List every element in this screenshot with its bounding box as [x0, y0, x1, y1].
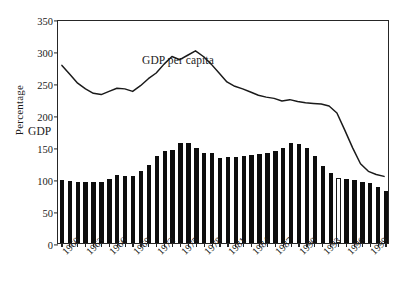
annotation-gdp-per-capita: GDP per capita — [142, 54, 214, 66]
y-axis-title: Percentage — [13, 55, 25, 165]
bar-1971 — [147, 165, 151, 243]
x-tick-mark — [188, 243, 189, 247]
y-tick-mark — [54, 20, 58, 21]
bar-1972 — [155, 156, 159, 243]
bar-1974 — [170, 150, 174, 243]
x-tick-mark — [354, 243, 355, 247]
x-tick-mark — [164, 243, 165, 247]
bar-1998 — [360, 182, 364, 243]
bar-1997 — [352, 180, 356, 243]
x-tick-mark — [77, 243, 78, 247]
bar-1978 — [202, 153, 206, 243]
x-tick-mark — [101, 243, 102, 247]
bar-1994 — [329, 173, 333, 243]
x-tick-mark — [267, 243, 268, 247]
x-tick-mark — [378, 243, 379, 247]
x-tick-mark — [235, 243, 236, 247]
bar-1981 — [226, 157, 230, 243]
bar-1964 — [91, 182, 95, 243]
x-tick-mark — [93, 243, 94, 247]
bar-1987 — [273, 151, 277, 243]
bar-1965 — [99, 182, 103, 243]
bar-1966 — [107, 179, 111, 243]
y-tick-mark — [54, 84, 58, 85]
bar-1982 — [234, 157, 238, 243]
bar-1995 — [336, 178, 340, 243]
bar-1988 — [281, 148, 285, 243]
plot-area: 050100150200250300350 196019631966196919… — [57, 20, 389, 244]
y-tick-mark — [54, 116, 58, 117]
bar-1990 — [297, 144, 301, 243]
bar-1962 — [76, 182, 80, 243]
bar-1977 — [194, 148, 198, 243]
bar-1975 — [178, 143, 182, 243]
bar-1991 — [305, 148, 309, 243]
y-tick-mark — [54, 244, 58, 245]
bar-1961 — [68, 181, 72, 243]
bar-1979 — [210, 153, 214, 243]
x-tick-mark — [125, 243, 126, 247]
y-tick-mark — [54, 180, 58, 181]
bar-1970 — [139, 171, 143, 243]
bar-1986 — [265, 153, 269, 243]
bar-1960 — [60, 180, 64, 243]
x-tick-mark — [69, 243, 70, 247]
bar-1976 — [186, 143, 190, 243]
bar-2001 — [384, 191, 388, 243]
y-tick-mark — [54, 52, 58, 53]
x-tick-mark — [212, 243, 213, 247]
bar-2000 — [376, 187, 380, 243]
bar-1992 — [313, 156, 317, 243]
x-tick-mark — [219, 243, 220, 247]
x-tick-mark — [140, 243, 141, 247]
gdp-chart: Percentage 050100150200250300350 1960196… — [0, 0, 414, 295]
y-tick-mark — [54, 148, 58, 149]
x-tick-mark — [243, 243, 244, 247]
bar-1996 — [344, 179, 348, 243]
annotation-gdp: GDP — [28, 125, 51, 137]
bar-1968 — [123, 176, 127, 243]
bar-1969 — [131, 176, 135, 243]
x-tick-mark — [338, 243, 339, 247]
x-tick-mark — [196, 243, 197, 247]
x-tick-mark — [362, 243, 363, 247]
gdp-per-capita-polyline — [62, 51, 384, 177]
x-tick-mark — [148, 243, 149, 247]
x-tick-mark — [283, 243, 284, 247]
plot-inner — [58, 21, 388, 243]
bar-1989 — [289, 143, 293, 243]
x-tick-mark — [117, 243, 118, 247]
bar-1980 — [218, 158, 222, 243]
bar-1963 — [83, 182, 87, 243]
bar-1985 — [257, 154, 261, 243]
x-tick-mark — [330, 243, 331, 247]
bar-1973 — [163, 151, 167, 243]
bar-1993 — [321, 166, 325, 243]
x-tick-mark — [172, 243, 173, 247]
x-tick-mark — [314, 243, 315, 247]
x-tick-mark — [291, 243, 292, 247]
y-tick-mark — [54, 212, 58, 213]
bar-1999 — [368, 183, 372, 243]
x-tick-mark — [385, 243, 386, 247]
bar-1984 — [249, 155, 253, 243]
bar-1967 — [115, 175, 119, 243]
x-tick-mark — [259, 243, 260, 247]
bar-1983 — [242, 156, 246, 243]
x-tick-mark — [306, 243, 307, 247]
